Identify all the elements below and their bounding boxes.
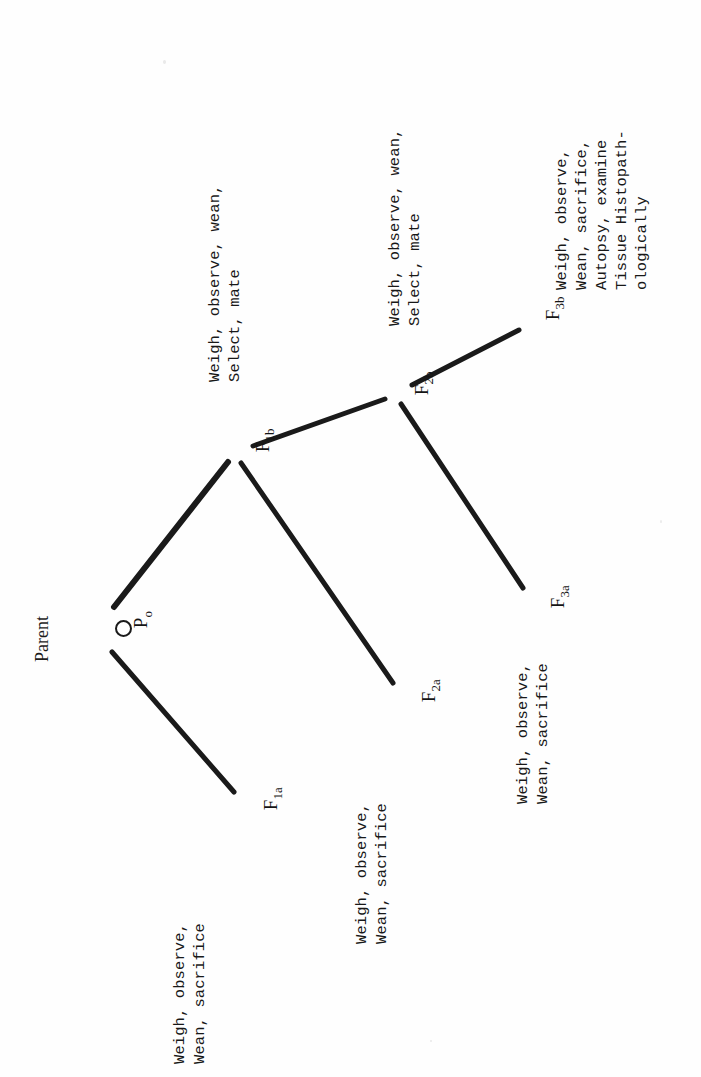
node-label-p0: Po (108, 611, 178, 648)
scan-speck (163, 60, 166, 64)
figure-page: Parent Po F1a F1b F2a F2b F3a F3b Weigh,… (0, 0, 701, 1077)
node-label-f2b: F2b (389, 371, 459, 415)
node-sub-f2a: 2a (428, 679, 443, 691)
node-base-f3a: F (547, 597, 568, 608)
annotation-f2a: Weigh, observe, Wean, sacrifice (352, 803, 392, 944)
annotation-f3a: Weigh, observe, Wean, sacrifice (513, 663, 553, 804)
node-base-f1b: F (252, 441, 273, 452)
edge-f2b-f3a (401, 404, 523, 588)
parent-caption: Parent (32, 616, 53, 662)
node-sub-f3b: 3b (552, 296, 567, 309)
node-label-f3b: F3b (520, 296, 590, 340)
node-label-f1a: F1a (238, 787, 308, 830)
node-sub-f1a: 1a (270, 787, 285, 799)
node-base-f1a: F (260, 799, 281, 810)
node-label-f1b: F1b (230, 428, 300, 472)
annotation-f2b: Weigh, observe, wean, Select, mate (385, 129, 425, 326)
edge-f1b-f2a (241, 463, 393, 683)
node-sub-f2b: 2b (421, 371, 436, 384)
node-sub-p0: o (140, 611, 155, 618)
node-label-f3a: F3a (525, 585, 595, 628)
annotation-f1a: Weigh, observe, Wean, sacrifice (170, 923, 210, 1064)
node-base-p0: P (130, 617, 151, 628)
edge-p0-f1a (112, 652, 234, 792)
scan-speck (660, 520, 662, 523)
annotation-f1b: Weigh, observe, wean, Select, mate (205, 185, 245, 382)
annotation-f3b: Weigh, observe, Wean, sacrifice, Autopsy… (552, 130, 652, 290)
node-label-f2a: F2a (396, 679, 466, 722)
node-sub-f1b: 1b (262, 428, 277, 441)
edge-p0-f1b (114, 462, 228, 607)
node-base-f2b: F (411, 384, 432, 395)
scan-speck (430, 1040, 432, 1042)
node-base-f2a: F (418, 691, 439, 702)
node-sub-f3a: 3a (557, 585, 572, 597)
node-base-f3b: F (542, 309, 563, 320)
